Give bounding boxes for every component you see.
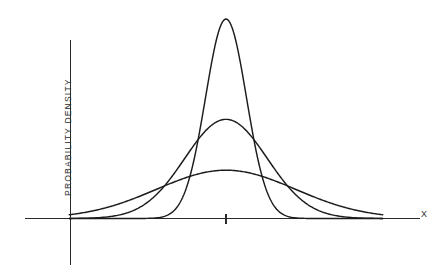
probability-density-figure: PROBABILITY DENSITY X [0, 0, 444, 277]
axes-group [25, 40, 420, 265]
x-axis-label: X [421, 210, 427, 219]
density-curve-wide [69, 170, 383, 215]
curves-group [69, 19, 383, 219]
density-curve-medium [69, 119, 383, 218]
y-axis-label: PROBABILITY DENSITY [64, 0, 73, 196]
